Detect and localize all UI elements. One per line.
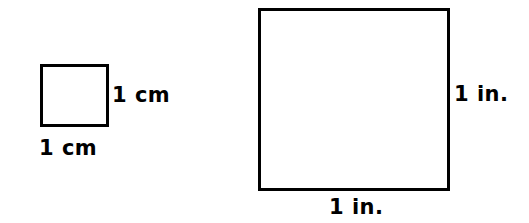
centimeter-square-width-label: 1 cm: [39, 138, 97, 159]
inch-square-shape: [258, 8, 450, 191]
centimeter-square-shape: [40, 64, 109, 127]
figure-canvas: 1 cm 1 cm 1 in. 1 in.: [0, 0, 529, 223]
inch-square-height-label: 1 in.: [454, 84, 509, 105]
centimeter-square-height-label: 1 cm: [112, 85, 170, 106]
inch-square-width-label: 1 in.: [329, 197, 384, 218]
